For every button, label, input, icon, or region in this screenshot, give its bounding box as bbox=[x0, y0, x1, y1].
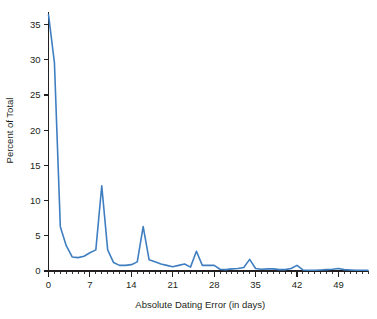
y-tick-label-20: 20 bbox=[30, 125, 41, 136]
x-axis-title: Absolute Dating Error (in days) bbox=[135, 299, 265, 310]
x-tick-label-7: 7 bbox=[87, 279, 92, 290]
y-tick-label-5: 5 bbox=[35, 230, 40, 241]
x-tick-label-0: 0 bbox=[46, 279, 51, 290]
chart-container: 0510152025303507142128354249Absolute Dat… bbox=[0, 0, 377, 319]
dating-error-line-chart: 0510152025303507142128354249Absolute Dat… bbox=[0, 0, 377, 319]
x-tick-label-21: 21 bbox=[167, 279, 178, 290]
y-tick-label-10: 10 bbox=[30, 195, 41, 206]
y-tick-label-0: 0 bbox=[35, 265, 40, 276]
y-tick-label-25: 25 bbox=[30, 89, 41, 100]
x-tick-label-35: 35 bbox=[250, 279, 261, 290]
y-axis-title: Percent of Total bbox=[4, 98, 15, 164]
y-tick-label-30: 30 bbox=[30, 54, 41, 65]
data-series-line bbox=[49, 15, 369, 271]
x-tick-label-42: 42 bbox=[292, 279, 303, 290]
x-tick-label-14: 14 bbox=[126, 279, 137, 290]
x-tick-label-49: 49 bbox=[333, 279, 344, 290]
x-tick-label-28: 28 bbox=[209, 279, 220, 290]
y-tick-label-35: 35 bbox=[30, 19, 41, 30]
y-tick-label-15: 15 bbox=[30, 160, 41, 171]
